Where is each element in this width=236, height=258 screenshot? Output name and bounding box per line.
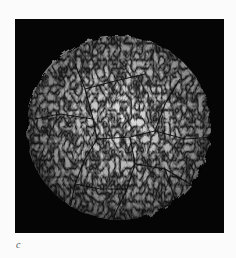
figure-image-panel — [15, 19, 224, 233]
capsid-rendering — [15, 19, 224, 233]
panel-label: c — [16, 239, 20, 250]
capsid-surface-texture — [15, 19, 224, 233]
